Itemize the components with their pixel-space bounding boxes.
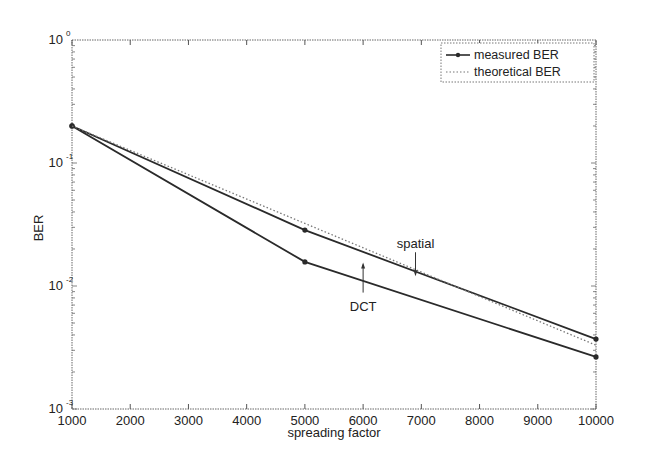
x-tick-label: 3000 — [174, 413, 203, 428]
y-tick-labels: 10010-110-210-3 — [49, 29, 74, 416]
svg-text:10: 10 — [49, 32, 63, 47]
svg-text:-2: -2 — [66, 275, 74, 284]
plot-border — [72, 40, 596, 409]
x-tick-label: 4000 — [232, 413, 261, 428]
x-tick-label: 2000 — [116, 413, 145, 428]
svg-text:10: 10 — [49, 278, 63, 293]
legend: measured BER theoretical BER — [441, 43, 594, 82]
legend-measured-label: measured BER — [474, 48, 559, 62]
data-point — [593, 337, 598, 342]
plot-frame — [72, 40, 596, 409]
y-tick-label: 10-1 — [49, 152, 74, 170]
svg-text:-1: -1 — [66, 152, 74, 161]
series-layer — [69, 123, 598, 359]
x-axis-label: spreading factor — [287, 425, 381, 440]
x-tick-label: 10000 — [578, 413, 614, 428]
ber-chart: 1000200030004000500060007000800090001000… — [0, 0, 650, 465]
data-point — [302, 227, 307, 232]
svg-text:10: 10 — [49, 155, 63, 170]
svg-text:0: 0 — [66, 29, 71, 38]
x-tick-label: 8000 — [465, 413, 494, 428]
data-point — [593, 354, 598, 359]
annotation-spatial: spatial — [397, 236, 435, 276]
y-tick-label: 10-2 — [49, 275, 74, 293]
legend-measured-marker — [456, 53, 460, 57]
x-tick-label: 9000 — [523, 413, 552, 428]
x-tick-label: 7000 — [407, 413, 436, 428]
y-tick-label: 100 — [49, 29, 71, 47]
data-point — [69, 123, 74, 128]
series-line-2 — [72, 126, 596, 345]
data-point — [302, 259, 307, 264]
annotation-dct: DCT — [350, 263, 377, 314]
svg-text:spatial: spatial — [397, 236, 435, 251]
y-axis-label: BER — [31, 215, 46, 242]
axis-ticks — [72, 40, 596, 409]
legend-theoretical-label: theoretical BER — [474, 65, 561, 79]
svg-text:-3: -3 — [66, 398, 74, 407]
svg-text:DCT: DCT — [350, 299, 377, 314]
svg-text:10: 10 — [49, 401, 63, 416]
series-line-0 — [72, 126, 596, 339]
